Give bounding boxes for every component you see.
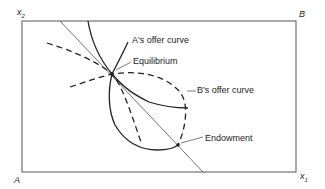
origin-a-label: A [14,176,20,185]
origin-b-label: B [299,10,305,19]
endowment-point [176,143,180,147]
b-offer-curve-label: B's offer curve [197,86,254,95]
y-axis-label: x2 [17,8,25,19]
equilibrium-label: Equilibrium [133,57,178,66]
x-axis-label: x1 [300,172,308,183]
endowment-leader [181,137,203,143]
b-indifference-curve [47,43,142,145]
edgeworth-box-diagram [0,0,325,189]
equilibrium-point [110,72,114,76]
endowment-label: Endowment [205,134,253,143]
a-offer-curve-label: A's offer curve [132,36,189,45]
b-offer-curve [70,73,186,145]
